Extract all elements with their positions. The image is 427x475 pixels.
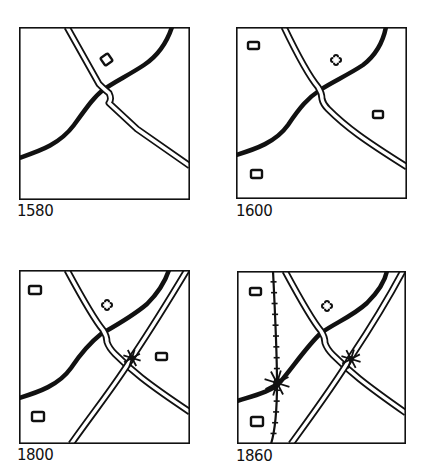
church-cross-icon (330, 54, 342, 66)
map-drawing (19, 270, 190, 444)
road-fill (67, 27, 190, 166)
map-panel-1600: 1600 (236, 27, 407, 199)
building-icon (248, 42, 259, 49)
building-icon (100, 53, 113, 66)
building-icon (251, 417, 263, 426)
building-icon (29, 286, 41, 294)
year-label: 1580 (17, 204, 53, 219)
year-label: 1800 (17, 448, 53, 463)
year-label: 1860 (236, 449, 272, 464)
building-icon (250, 288, 261, 295)
map-panel-1580: 1580 (19, 27, 190, 200)
road-outline (67, 27, 190, 166)
map-drawing (236, 27, 407, 199)
church-cross-icon (321, 300, 333, 312)
map-content (236, 27, 407, 178)
building-icon (156, 353, 167, 360)
map-content (19, 27, 190, 166)
map-content (237, 271, 406, 444)
map-drawing (237, 271, 406, 444)
year-label: 1600 (236, 204, 272, 219)
road-fill (284, 27, 407, 167)
road-outline (284, 27, 407, 167)
building-icon (373, 111, 383, 118)
map-content (19, 270, 190, 444)
building-icon (32, 412, 44, 421)
building-icon (251, 170, 262, 178)
map-drawing (19, 27, 190, 200)
church-cross-icon (101, 299, 113, 311)
map-panel-1800: 1800 (19, 270, 190, 444)
map-panel-1860: 1860 (237, 271, 406, 444)
map-frame (20, 28, 189, 199)
